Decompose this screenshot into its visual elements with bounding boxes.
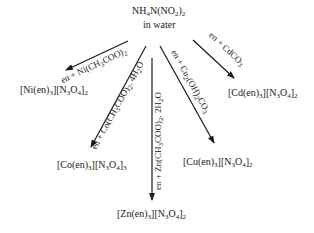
product-cu: [Cu(en)3][N3O4]2 <box>183 156 253 167</box>
product-cd: [Cd(en)3][N3O4]2 <box>228 87 298 98</box>
reactant-formula: NH4N(NO2)2 <box>132 5 185 16</box>
reagent-label-zn: en + Zn(CH3COO)2. 2H2O <box>153 92 163 190</box>
product-ni: [Ni(en)3][N3O4]2 <box>20 84 88 95</box>
product-co: [Co(en)3][N3O4]3 <box>57 159 127 170</box>
arrow-cu <box>160 46 214 143</box>
solvent-label: in water <box>143 19 176 30</box>
reaction-scheme: NH4N(NO2)2 in water en + Ni(CH3COO)2 [Ni… <box>0 0 314 233</box>
product-zn: [Zn(en)3][N3O4]2 <box>117 208 186 219</box>
